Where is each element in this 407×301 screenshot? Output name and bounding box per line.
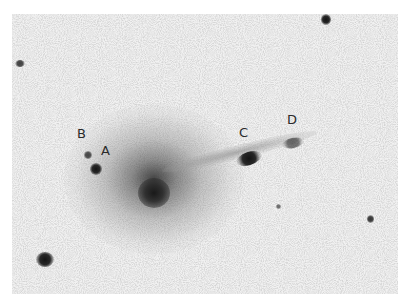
field-star xyxy=(367,215,374,223)
label-b: B xyxy=(77,126,86,141)
astronomical-image: B A C D xyxy=(0,0,407,301)
field-star xyxy=(36,252,54,267)
galaxy-core xyxy=(138,178,170,208)
object-a xyxy=(90,163,102,175)
field-star xyxy=(276,204,281,209)
sky-field xyxy=(12,14,398,294)
field-star xyxy=(321,14,331,25)
field-star xyxy=(15,60,25,67)
label-c: C xyxy=(239,125,248,140)
label-d: D xyxy=(287,112,297,127)
object-b xyxy=(84,151,92,159)
label-a: A xyxy=(101,143,110,158)
